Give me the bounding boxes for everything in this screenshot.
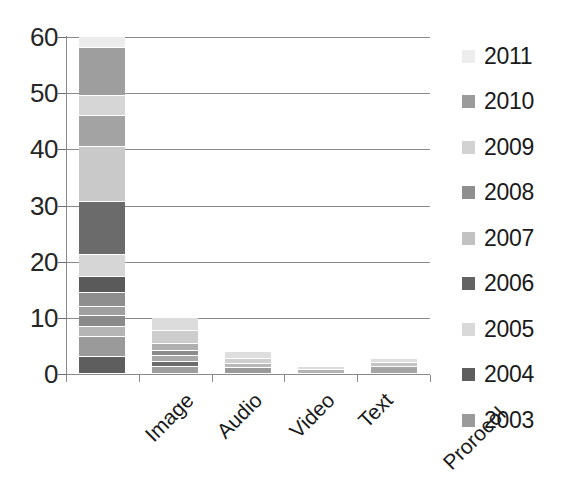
legend-item-2003[interactable]: 2003 bbox=[462, 408, 534, 432]
y-axis-tick-label: 60 bbox=[12, 24, 58, 50]
legend-label: 2003 bbox=[484, 409, 534, 432]
x-axis-category-label-image: Image bbox=[141, 389, 197, 445]
y-axis-tick-label: 30 bbox=[12, 193, 58, 219]
bar-segment[interactable] bbox=[152, 367, 198, 373]
bar-segment[interactable] bbox=[298, 367, 344, 369]
bar-segment[interactable] bbox=[225, 352, 271, 359]
bar-segment[interactable] bbox=[79, 116, 125, 146]
bar-stack-audio[interactable] bbox=[152, 37, 198, 374]
plot-area bbox=[66, 37, 430, 374]
x-axis-tick-mark bbox=[430, 375, 431, 382]
x-axis-line bbox=[66, 374, 430, 375]
bar-segment[interactable] bbox=[152, 331, 198, 343]
bar-segment[interactable] bbox=[79, 337, 125, 356]
x-axis-tick-mark bbox=[357, 375, 358, 382]
bar-segment[interactable] bbox=[371, 367, 417, 373]
x-axis-tick-mark bbox=[212, 375, 213, 382]
y-axis-tick-label: 10 bbox=[12, 305, 58, 331]
bar-segment[interactable] bbox=[371, 363, 417, 366]
bar-segment[interactable] bbox=[79, 96, 125, 115]
y-axis-tick-label: 40 bbox=[12, 136, 58, 162]
bar-segment[interactable] bbox=[152, 318, 198, 330]
y-axis-tick-label: 0 bbox=[12, 361, 58, 387]
y-axis-tick-label: 50 bbox=[12, 80, 58, 106]
y-axis-tick-label: 20 bbox=[12, 249, 58, 275]
bar-segment[interactable] bbox=[79, 37, 125, 47]
x-axis-category-label-text: Text bbox=[354, 389, 396, 431]
bar-stack-image[interactable] bbox=[79, 37, 125, 374]
y-axis-labels: 0102030405060 bbox=[6, 0, 58, 481]
bar-segment[interactable] bbox=[225, 368, 271, 373]
legend-label: 2011 bbox=[484, 45, 532, 68]
legend-swatch-icon bbox=[462, 368, 475, 381]
bar-segment[interactable] bbox=[79, 307, 125, 315]
legend-label: 2004 bbox=[484, 363, 534, 386]
bar-segment[interactable] bbox=[152, 356, 198, 361]
bar-segment[interactable] bbox=[79, 48, 125, 95]
legend-item-2011[interactable]: 2011 bbox=[462, 44, 532, 68]
legend-swatch-icon bbox=[462, 50, 475, 63]
chart-legend: 201120102009200820072006200520042003 bbox=[462, 44, 558, 444]
legend-swatch-icon bbox=[462, 186, 475, 199]
x-axis-tick-mark bbox=[284, 375, 285, 382]
bar-stack-text[interactable] bbox=[298, 37, 344, 374]
legend-label: 2005 bbox=[484, 318, 534, 341]
legend-swatch-icon bbox=[462, 95, 475, 108]
bar-stack-prorocol[interactable] bbox=[371, 37, 417, 374]
legend-label: 2010 bbox=[484, 90, 534, 113]
bar-segment[interactable] bbox=[152, 362, 198, 366]
legend-label: 2008 bbox=[484, 181, 534, 204]
bar-segment[interactable] bbox=[225, 359, 271, 362]
legend-item-2008[interactable]: 2008 bbox=[462, 181, 534, 205]
x-axis-tick-mark bbox=[66, 375, 67, 382]
bar-segment[interactable] bbox=[371, 359, 417, 362]
legend-label: 2009 bbox=[484, 136, 534, 159]
bar-segment[interactable] bbox=[79, 202, 125, 254]
bar-segment[interactable] bbox=[79, 293, 125, 307]
x-axis-tick-mark bbox=[139, 375, 140, 382]
legend-swatch-icon bbox=[462, 414, 475, 427]
bar-segment[interactable] bbox=[152, 344, 198, 350]
legend-swatch-icon bbox=[462, 232, 475, 245]
legend-swatch-icon bbox=[462, 277, 475, 290]
legend-item-2006[interactable]: 2006 bbox=[462, 272, 534, 296]
stacked-bar-chart: 0102030405060 ImageAudioVideoTextProroco… bbox=[0, 0, 562, 481]
bar-segment[interactable] bbox=[152, 351, 198, 355]
bar-segment[interactable] bbox=[225, 364, 271, 367]
legend-item-2009[interactable]: 2009 bbox=[462, 135, 534, 159]
bar-segment[interactable] bbox=[79, 255, 125, 275]
x-axis-category-label-video: Video bbox=[286, 389, 339, 442]
legend-item-2007[interactable]: 2007 bbox=[462, 226, 534, 250]
bar-segment[interactable] bbox=[79, 277, 125, 292]
bar-segment[interactable] bbox=[79, 147, 125, 201]
legend-swatch-icon bbox=[462, 323, 475, 336]
legend-item-2010[interactable]: 2010 bbox=[462, 90, 534, 114]
legend-swatch-icon bbox=[462, 141, 475, 154]
x-axis-category-label-audio: Audio bbox=[213, 389, 266, 442]
legend-label: 2007 bbox=[484, 227, 534, 250]
legend-item-2005[interactable]: 2005 bbox=[462, 317, 534, 341]
bar-stack-video[interactable] bbox=[225, 37, 271, 374]
legend-item-2004[interactable]: 2004 bbox=[462, 363, 534, 387]
legend-label: 2006 bbox=[484, 272, 534, 295]
bar-segment[interactable] bbox=[79, 327, 125, 336]
bar-segment[interactable] bbox=[298, 370, 344, 373]
bar-segment[interactable] bbox=[79, 357, 125, 373]
bar-segment[interactable] bbox=[79, 316, 125, 326]
